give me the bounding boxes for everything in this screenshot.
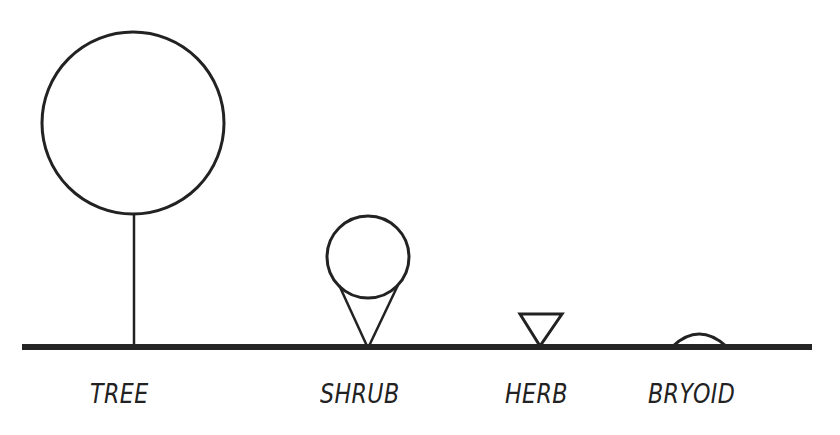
- tree-symbol: [42, 32, 224, 346]
- herb-symbol: [520, 314, 562, 346]
- growth-form-diagram: [0, 0, 840, 435]
- ground-line: [22, 344, 812, 350]
- tree-label: TREE: [90, 378, 149, 409]
- shrub-label: SHRUB: [320, 378, 400, 409]
- shrub-symbol: [327, 216, 409, 346]
- herb-triangle: [520, 314, 562, 346]
- bryoid-label: BRYOID: [648, 378, 735, 409]
- tree-crown-circle: [42, 32, 224, 214]
- herb-label: HERB: [505, 378, 568, 409]
